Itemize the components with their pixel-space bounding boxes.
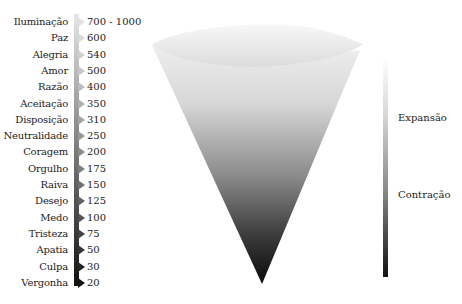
- expansion-contraction-bar: [383, 58, 388, 277]
- cone-graphic: [0, 0, 462, 304]
- expansion-label: Expansão: [398, 112, 447, 123]
- cone-body: [152, 45, 360, 284]
- contraction-label: Contração: [398, 189, 450, 200]
